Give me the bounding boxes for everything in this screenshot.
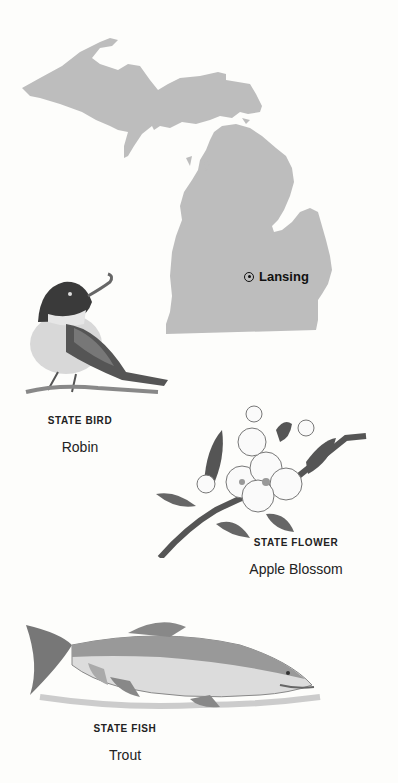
symbol-name: Robin — [40, 439, 120, 455]
symbol-category: STATE BIRD — [40, 415, 120, 426]
symbol-name: Apple Blossom — [236, 561, 356, 577]
trout-illustration — [20, 605, 330, 720]
robin-illustration — [18, 262, 178, 407]
apple-blossom-illustration — [146, 398, 376, 558]
symbol-category: STATE FISH — [80, 723, 170, 734]
capital-name: Lansing — [259, 269, 309, 284]
symbol-name: Trout — [80, 747, 170, 763]
capital-marker: Lansing — [244, 269, 309, 284]
capital-star-circle-icon — [244, 272, 254, 282]
state-flower-section: STATE FLOWER Apple Blossom — [146, 398, 376, 598]
symbol-category: STATE FLOWER — [246, 537, 346, 548]
state-fish-section: STATE FISH Trout — [20, 605, 330, 775]
